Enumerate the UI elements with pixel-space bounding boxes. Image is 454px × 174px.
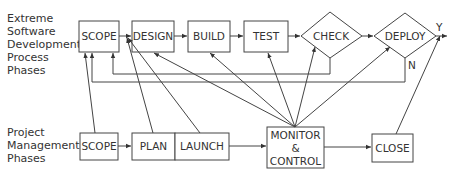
svg-text:Management: Management [7,139,80,152]
no-label: N [408,59,416,71]
diagram-canvas: Extreme Software Development Process Pha… [0,0,454,174]
svg-text:DESIGN: DESIGN [133,30,173,42]
pm-row-label: Project Management Phases [7,126,80,165]
pm-plan-box: PLAN [132,133,175,160]
svg-text:BUILD: BUILD [193,30,225,42]
svg-text:Development: Development [7,38,82,51]
svg-text:SCOPE: SCOPE [81,140,116,152]
feedback-loops [92,53,405,82]
xp-scope-box: SCOPE [79,21,119,52]
xp-build-box: BUILD [188,21,230,52]
svg-text:LAUNCH: LAUNCH [180,140,224,152]
svg-text:Extreme: Extreme [7,12,54,25]
svg-text:&: & [291,142,299,154]
pm-close-box: CLOSE [372,134,413,162]
svg-text:Phases: Phases [7,152,46,165]
xp-check-diamond: CHECK [301,12,362,58]
svg-text:Process: Process [7,51,49,64]
svg-text:CONTROL: CONTROL [270,155,321,167]
svg-text:TEST: TEST [252,30,280,42]
pm-monitor-control-box: MONITOR & CONTROL [267,127,324,168]
xp-row-label: Extreme Software Development Process Pha… [7,12,82,77]
svg-text:CHECK: CHECK [313,30,350,42]
svg-text:PLAN: PLAN [140,140,167,152]
xp-test-box: TEST [244,21,288,52]
svg-text:Software: Software [7,25,56,38]
yes-label: Y [435,21,443,33]
svg-text:SCOPE: SCOPE [81,30,116,42]
xp-design-box: DESIGN [132,21,174,52]
pm-scope-box: SCOPE [80,133,118,160]
xp-deploy-diamond: DEPLOY [374,13,436,58]
pm-launch-box: LAUNCH [175,133,229,160]
svg-text:CLOSE: CLOSE [375,142,409,154]
svg-text:DEPLOY: DEPLOY [385,30,426,42]
svg-text:Project: Project [7,126,45,139]
svg-text:MONITOR: MONITOR [270,129,320,141]
svg-text:Phases: Phases [7,64,46,77]
